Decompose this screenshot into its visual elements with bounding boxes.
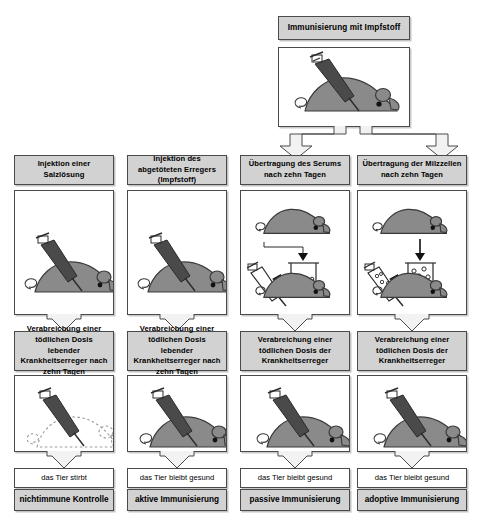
column-2-treatment-box: Verabreichung einer tödlichen Dosis lebe… bbox=[127, 331, 227, 371]
column-4-treatment-label: Verabreichung einer tödlichen Dosis der … bbox=[361, 335, 463, 367]
immunization-title-label: Immunisierung mit Impfstoff bbox=[282, 22, 406, 34]
column-4-arrow-to-treatment bbox=[394, 314, 430, 332]
column-4-conclusion-label: adoptive Immunisierung bbox=[358, 495, 466, 506]
column-3-treatment-box: Verabreichung einer tödlichen Dosis der … bbox=[240, 331, 350, 371]
dead-mouse-illustration bbox=[15, 376, 114, 452]
column-2-conclusion-label: aktive Immunisierung bbox=[128, 495, 226, 506]
mouse-saline-injection-illustration bbox=[15, 191, 114, 315]
healthy-mouse-illustration bbox=[128, 376, 227, 452]
column-3-conclusion-box: passive Immunisierung bbox=[240, 489, 350, 511]
column-1-outcome-box: das Tier stirbt bbox=[14, 468, 114, 488]
column-3-arrow-to-outcome bbox=[277, 451, 313, 469]
column-1-arrow-to-outcome bbox=[46, 451, 82, 469]
column-3-arrow-to-treatment bbox=[277, 314, 313, 332]
column-2-conclusion-box: aktive Immunisierung bbox=[127, 489, 227, 511]
spleen-cell-transfer-illustration bbox=[358, 191, 467, 315]
mouse-injected-illustration bbox=[279, 48, 410, 127]
immunization-title-box: Immunisierung mit Impfstoff bbox=[278, 16, 410, 40]
column-3-header-label: Übertragung des Serums nach zehn Tagen bbox=[244, 159, 346, 181]
column-1-conclusion-box: nichtimmune Kontrolle bbox=[14, 489, 114, 511]
column-2-illustration-top bbox=[127, 190, 227, 315]
column-4-header-label: Übertragung der Milzzellen nach zehn Tag… bbox=[361, 159, 463, 181]
column-4-arrow-to-outcome bbox=[394, 451, 430, 469]
immunization-flowchart: Immunisierung mit Impfstoff bbox=[0, 0, 480, 532]
column-2-arrow-to-outcome bbox=[159, 451, 195, 469]
mouse-killed-pathogen-injection-illustration bbox=[128, 191, 227, 315]
column-4-outcome-box: das Tier bleibt gesund bbox=[357, 468, 467, 488]
column-4-header-box: Übertragung der Milzzellen nach zehn Tag… bbox=[357, 155, 467, 185]
column-4-illustration-top bbox=[357, 190, 467, 315]
column-2-illustration-bottom bbox=[127, 375, 227, 452]
healthy-mouse-illustration bbox=[358, 376, 467, 452]
column-4-illustration-bottom bbox=[357, 375, 467, 452]
column-3-treatment-label: Verabreichung einer tödlichen Dosis der … bbox=[244, 335, 346, 367]
column-2-header-box: Injektion des abgetöteten Erregers (Impf… bbox=[127, 155, 227, 185]
column-4-outcome-label: das Tier bleibt gesund bbox=[358, 473, 466, 483]
column-3-header-box: Übertragung des Serums nach zehn Tagen bbox=[240, 155, 350, 185]
column-3-outcome-box: das Tier bleibt gesund bbox=[240, 468, 350, 488]
column-1-treatment-label: Verabreichung einer tödlichen Dosis lebe… bbox=[18, 324, 110, 378]
column-2-outcome-box: das Tier bleibt gesund bbox=[127, 468, 227, 488]
column-1-illustration-bottom bbox=[14, 375, 114, 452]
column-1-illustration-top bbox=[14, 190, 114, 315]
column-3-conclusion-label: passive Immunisierung bbox=[241, 495, 349, 506]
column-1-outcome-label: das Tier stirbt bbox=[15, 473, 113, 483]
column-2-header-label: Injektion des abgetöteten Erregers (Impf… bbox=[131, 154, 223, 186]
column-1-treatment-box: Verabreichung einer tödlichen Dosis lebe… bbox=[14, 331, 114, 371]
column-2-outcome-label: das Tier bleibt gesund bbox=[128, 473, 226, 483]
column-1-header-label: Injektion einer Salzlösung bbox=[18, 159, 110, 181]
column-3-outcome-label: das Tier bleibt gesund bbox=[241, 473, 349, 483]
column-3-illustration-top bbox=[240, 190, 350, 315]
serum-transfer-illustration bbox=[241, 191, 350, 315]
column-3-illustration-bottom bbox=[240, 375, 350, 452]
column-1-header-box: Injektion einer Salzlösung bbox=[14, 155, 114, 185]
healthy-mouse-illustration bbox=[241, 376, 350, 452]
column-1-conclusion-label: nichtimmune Kontrolle bbox=[15, 495, 113, 506]
column-4-treatment-box: Verabreichung einer tödlichen Dosis der … bbox=[357, 331, 467, 371]
column-2-treatment-label: Verabreichung einer tödlichen Dosis lebe… bbox=[131, 324, 223, 378]
column-4-conclusion-box: adoptive Immunisierung bbox=[357, 489, 467, 511]
immunization-illustration-panel bbox=[278, 47, 410, 127]
